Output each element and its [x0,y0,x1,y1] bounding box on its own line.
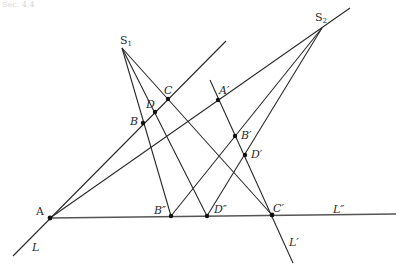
ray-A-S2 [50,8,350,218]
line-L-prime [210,80,293,263]
label-A: A [35,205,45,218]
label-B-double-prime: B″ [153,204,167,217]
label-line-L: L [31,241,39,254]
label-A-prime: A′ [218,84,230,97]
projective-diagram: Sec. 4.4 S1 S2 A B D C A′ B′ D′ C′ B″ D″… [0,0,407,278]
label-D: D [145,98,155,111]
line-L [13,41,226,256]
label-C: C [164,84,173,97]
header-fragment: Sec. 4.4 [2,0,35,9]
label-S2: S2 [315,11,327,25]
ray-S2-Dpp [207,28,322,216]
label-D-double-prime: D″ [213,203,228,216]
point-A [48,216,53,221]
ray-S2-Bpp [171,28,322,216]
label-S1: S1 [120,34,132,48]
point-D-double-prime [205,214,209,218]
point-D-prime [243,153,247,157]
point-B-double-prime [169,214,173,218]
label-line-L-prime: L′ [288,236,299,249]
point-C [166,97,170,101]
label-D-prime: D′ [250,148,263,161]
label-C-prime: C′ [273,202,284,215]
point-A-prime [216,98,220,102]
point-B-prime [233,134,237,138]
label-B: B [129,115,138,128]
ray-S1-Bpp [122,48,171,216]
label-line-L-double-prime: L″ [332,203,345,216]
label-B-prime: B′ [240,129,252,142]
point-B [141,121,145,125]
